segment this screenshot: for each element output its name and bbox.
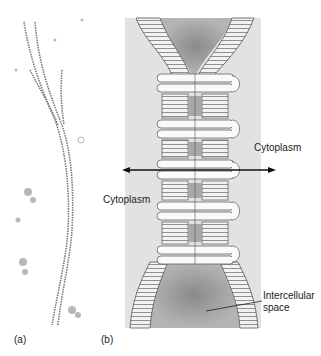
intercellular-label-line2: space xyxy=(263,302,290,313)
cytoplasm-label-left: Cytoplasm xyxy=(103,194,150,205)
panel-a-label: (a) xyxy=(14,334,26,345)
cytoplasm-label-right: Cytoplasm xyxy=(254,142,301,153)
panel-b-label: (b) xyxy=(101,334,113,345)
intercellular-label-line1: Intercellular xyxy=(263,290,315,301)
